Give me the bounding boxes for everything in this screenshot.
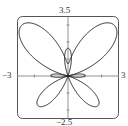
- y-max-label: 3.5: [59, 6, 70, 15]
- x-min-label: −3: [2, 71, 12, 80]
- polar-plot: [0, 0, 128, 126]
- y-min-label: −2.5: [56, 118, 72, 126]
- x-max-label: 3: [121, 71, 126, 80]
